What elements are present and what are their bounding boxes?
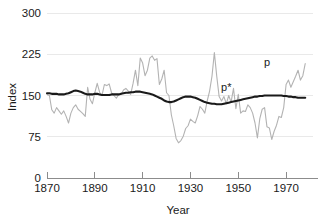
line-chart: 075150225300187018901910193019501970 pp*… bbox=[0, 0, 323, 219]
y-tick-label-300: 300 bbox=[22, 7, 41, 19]
x-tick-label-1890: 1890 bbox=[82, 182, 108, 194]
series-line-pstar bbox=[47, 91, 305, 105]
y-tick-label-75: 75 bbox=[28, 131, 41, 143]
chart-container: 075150225300187018901910193019501970 pp*… bbox=[0, 0, 323, 219]
series-annotations-group: pp* bbox=[221, 56, 270, 93]
annotation-pstar: p* bbox=[221, 81, 232, 93]
y-tick-label-150: 150 bbox=[22, 90, 41, 102]
x-tick-label-1970: 1970 bbox=[273, 182, 299, 194]
x-axis-label: Year bbox=[166, 204, 189, 216]
tick-labels-group: 075150225300187018901910193019501970 bbox=[22, 7, 299, 194]
tick-marks-group bbox=[95, 172, 286, 178]
y-tick-label-225: 225 bbox=[22, 48, 41, 60]
annotation-p: p bbox=[264, 56, 270, 68]
x-tick-label-1930: 1930 bbox=[178, 182, 204, 194]
x-tick-label-1910: 1910 bbox=[130, 182, 156, 194]
gridlines-group bbox=[47, 13, 313, 137]
x-tick-label-1870: 1870 bbox=[34, 182, 60, 194]
y-axis-label: Index bbox=[6, 83, 18, 111]
x-tick-label-1950: 1950 bbox=[225, 182, 251, 194]
axes-group bbox=[47, 172, 318, 178]
